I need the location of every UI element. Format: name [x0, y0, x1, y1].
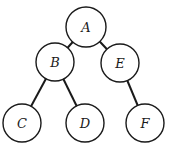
node-b: B	[36, 43, 74, 81]
node-e-label: E	[114, 56, 125, 71]
node-f-label: F	[139, 116, 150, 131]
node-e: E	[101, 44, 139, 82]
node-d: D	[66, 104, 104, 142]
node-c: C	[3, 104, 41, 142]
node-d-label: D	[79, 116, 91, 131]
node-c-label: C	[17, 116, 27, 131]
node-a: A	[66, 7, 106, 47]
tree-diagram: A B E C D F	[0, 0, 173, 151]
node-b-label: B	[49, 55, 60, 70]
node-f: F	[126, 104, 164, 142]
node-a-label: A	[80, 20, 90, 35]
